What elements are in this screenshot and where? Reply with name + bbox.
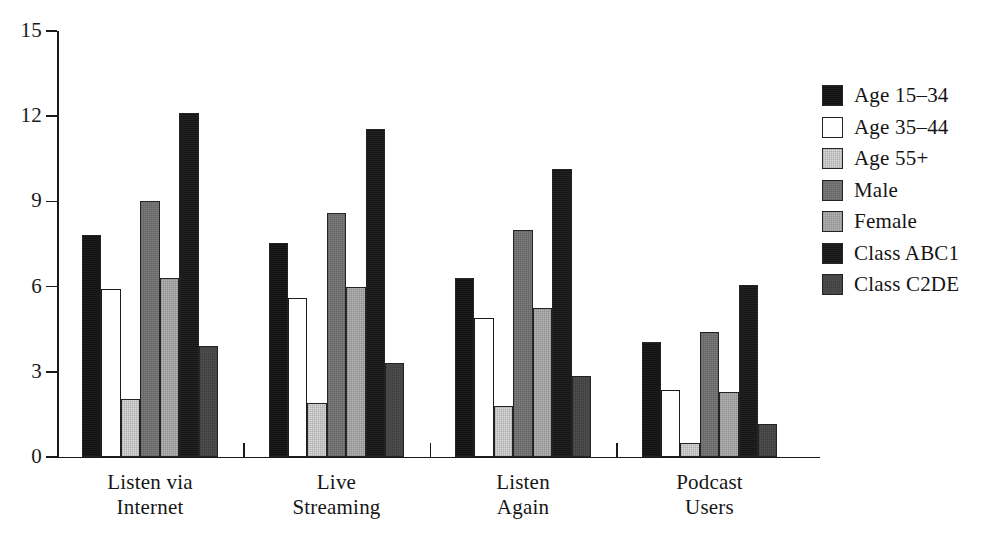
legend-item[interactable]: Age 35–44 bbox=[822, 112, 959, 144]
legend-item[interactable]: Class ABC1 bbox=[822, 238, 959, 270]
y-axis-tick-label: 12 bbox=[2, 105, 42, 126]
bar bbox=[307, 403, 326, 457]
bar-chart: 03691215 Listen viaInternetLiveStreaming… bbox=[0, 0, 993, 538]
bar bbox=[121, 399, 140, 457]
bar bbox=[101, 289, 120, 457]
legend-item-label: Male bbox=[854, 180, 898, 201]
y-axis-tick bbox=[46, 201, 57, 203]
bar bbox=[474, 318, 493, 457]
bar bbox=[533, 308, 552, 457]
bar bbox=[269, 243, 288, 457]
y-axis-tick bbox=[46, 286, 57, 288]
bars-layer bbox=[57, 31, 820, 457]
bar bbox=[642, 342, 661, 457]
bar bbox=[366, 129, 385, 457]
bar bbox=[288, 298, 307, 457]
legend-swatch-icon bbox=[822, 117, 843, 138]
legend-item-label: Class C2DE bbox=[854, 274, 959, 295]
bar bbox=[179, 113, 198, 457]
legend-item-label: Age 35–44 bbox=[854, 117, 949, 138]
chart-legend: Age 15–34Age 35–44Age 55+MaleFemaleClass… bbox=[822, 80, 959, 301]
x-axis-category-label-line: Users bbox=[600, 495, 820, 520]
y-axis-tick-label: 15 bbox=[2, 20, 42, 41]
bar bbox=[661, 390, 680, 457]
bar bbox=[327, 213, 346, 457]
legend-swatch-icon bbox=[822, 148, 843, 169]
y-axis-tick-label: 9 bbox=[2, 190, 42, 211]
bar bbox=[160, 278, 179, 457]
x-axis-group-separator bbox=[243, 443, 245, 457]
bar bbox=[552, 169, 571, 457]
bar bbox=[455, 278, 474, 457]
y-axis-tick bbox=[46, 30, 57, 32]
x-axis-group-separator bbox=[430, 443, 432, 457]
bar bbox=[82, 235, 101, 457]
legend-item[interactable]: Age 55+ bbox=[822, 143, 959, 175]
x-axis-group-separator bbox=[616, 443, 618, 457]
bar bbox=[199, 346, 218, 457]
bar bbox=[680, 443, 699, 457]
bar bbox=[385, 363, 404, 457]
legend-swatch-icon bbox=[822, 180, 843, 201]
bar bbox=[346, 287, 365, 457]
y-axis-tick bbox=[46, 371, 57, 373]
y-axis-tick bbox=[46, 115, 57, 117]
legend-swatch-icon bbox=[822, 85, 843, 106]
legend-item[interactable]: Male bbox=[822, 175, 959, 207]
legend-swatch-icon bbox=[822, 274, 843, 295]
bar bbox=[494, 406, 513, 457]
legend-item-label: Age 15–34 bbox=[854, 85, 949, 106]
bar bbox=[739, 285, 758, 457]
bar bbox=[513, 230, 532, 457]
bar bbox=[758, 424, 777, 457]
legend-item[interactable]: Female bbox=[822, 206, 959, 238]
bar bbox=[700, 332, 719, 457]
bar bbox=[572, 376, 591, 457]
legend-item-label: Female bbox=[854, 211, 917, 232]
y-axis-tick-label: 3 bbox=[2, 361, 42, 382]
bar bbox=[140, 201, 159, 457]
x-axis-category-label-line: Podcast bbox=[600, 470, 820, 495]
legend-item[interactable]: Age 15–34 bbox=[822, 80, 959, 112]
y-axis-tick-label: 6 bbox=[2, 276, 42, 297]
legend-item[interactable]: Class C2DE bbox=[822, 269, 959, 301]
legend-swatch-icon bbox=[822, 243, 843, 264]
bar bbox=[719, 392, 738, 457]
legend-swatch-icon bbox=[822, 211, 843, 232]
y-axis-tick-label: 0 bbox=[2, 446, 42, 467]
legend-item-label: Class ABC1 bbox=[854, 243, 959, 264]
legend-item-label: Age 55+ bbox=[854, 148, 928, 169]
y-axis-tick bbox=[46, 456, 57, 458]
x-axis-category-label: PodcastUsers bbox=[600, 470, 820, 520]
